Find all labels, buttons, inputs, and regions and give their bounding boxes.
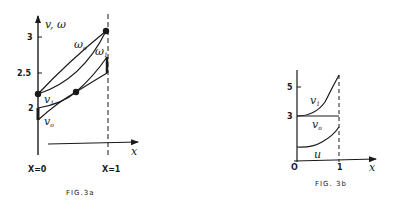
fig3a-point-start bbox=[35, 91, 41, 97]
fig3a-label-x0: X=0 bbox=[28, 165, 47, 174]
fig3a-curve-omega0 bbox=[38, 31, 106, 94]
fig3a-label-v0: vo bbox=[44, 115, 54, 128]
fig3a-y-axis-label: v, ω bbox=[45, 18, 66, 31]
fig3a-label-omega0: ωo bbox=[74, 38, 87, 51]
fig3b-x-tick-1: 1 bbox=[337, 163, 343, 172]
fig3a-tick-label-2.5: 2.5 bbox=[17, 69, 32, 78]
fig3a-label-x1: X=1 bbox=[102, 165, 121, 174]
fig3a-tick-label-3: 3 bbox=[27, 33, 33, 42]
fig3a-caption: FIG.3a bbox=[66, 189, 94, 197]
fig3b-origin-label: O bbox=[291, 163, 298, 172]
figure-canvas: v, ω 3 2.5 2 x ωo ω1 v1 vo X=0 bbox=[0, 0, 400, 211]
fig3a-point-end bbox=[103, 28, 109, 34]
fig3b-x-axis bbox=[294, 159, 376, 161]
fig3b-tick-label-5: 5 bbox=[287, 83, 293, 92]
fig3a-x-axis bbox=[48, 142, 138, 144]
fig3b-x-axis-label: x bbox=[369, 161, 376, 174]
fig3a-x-axis-label: x bbox=[131, 145, 138, 158]
fig3b-label-v1: v1 bbox=[310, 94, 320, 107]
fig3a-curve-omega1 bbox=[38, 31, 106, 94]
fig3a-tick-label-2: 2 bbox=[28, 104, 34, 113]
fig3a: v, ω 3 2.5 2 x ωo ω1 v1 vo X=0 bbox=[17, 14, 138, 197]
fig3b-caption: FIG. 3b bbox=[315, 180, 347, 188]
fig3b-label-u: u bbox=[314, 148, 321, 161]
fig3a-point-middle bbox=[73, 89, 79, 95]
fig3b-tick-label-3: 3 bbox=[287, 112, 293, 121]
fig3a-label-v1: v1 bbox=[44, 93, 54, 106]
fig3a-label-omega1: ω1 bbox=[95, 45, 108, 58]
fig3b-label-v0: vo bbox=[312, 118, 322, 131]
fig3b-curve-v1 bbox=[297, 75, 339, 116]
fig3b: 5 3 v1 vo u O 1 x FIG. 3b bbox=[287, 70, 376, 188]
